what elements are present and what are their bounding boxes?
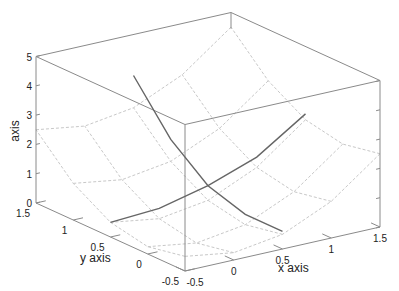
x-tick-label: 1 <box>328 244 334 255</box>
x-tick-label: 0 <box>231 266 237 277</box>
z-tick-label: 2 <box>26 139 32 150</box>
z-tick <box>36 173 40 174</box>
x-tick-label: 1.5 <box>373 233 387 244</box>
z-tick <box>36 202 40 203</box>
z-tick <box>36 56 40 57</box>
x-tick <box>176 267 185 271</box>
mesh-line-x <box>36 27 231 130</box>
surface-plot: -0.500.511.5-0.500.511.5012345 x axis y … <box>0 0 399 291</box>
box-edge <box>36 13 231 57</box>
y-tick-label: 1.5 <box>16 208 30 219</box>
slice-curves <box>111 76 306 232</box>
y-tick <box>111 235 121 237</box>
z-tick <box>36 144 40 145</box>
y-tick-label: 1 <box>62 225 68 236</box>
x-tick <box>274 245 283 249</box>
z-tick-label: 4 <box>26 81 32 92</box>
z-tick-label: 3 <box>26 110 32 121</box>
y-tick-label: -0.5 <box>162 276 180 287</box>
surface-mesh <box>36 27 380 256</box>
box-edge <box>231 13 380 81</box>
x-tick <box>225 256 234 260</box>
z-axis-label: axis <box>8 120 22 141</box>
y-tick <box>185 269 195 271</box>
y-axis-label: y axis <box>80 251 111 265</box>
x-tick <box>322 234 331 238</box>
axes-box <box>36 13 380 272</box>
z-tick-right <box>376 110 380 111</box>
y-tick-label: 0 <box>136 259 142 270</box>
z-tick <box>36 114 40 115</box>
x-tick-label: -0.5 <box>186 277 204 288</box>
mesh-line-x <box>185 154 380 257</box>
z-tick-label: 0 <box>26 198 32 209</box>
y-tick <box>148 252 158 254</box>
slice-curve <box>111 114 306 222</box>
z-tick-right <box>376 227 380 228</box>
z-tick-label: 1 <box>26 169 32 180</box>
box-edge <box>185 81 380 125</box>
x-tick <box>371 223 380 227</box>
z-tick <box>36 85 40 86</box>
z-tick-right <box>376 168 380 169</box>
z-tick-label: 5 <box>26 52 32 63</box>
tick-labels: -0.500.511.5-0.500.511.5012345 <box>16 52 387 289</box>
mesh-line-x <box>148 144 343 247</box>
mesh-line-x <box>111 120 306 223</box>
y-tick <box>73 218 83 220</box>
z-tick-right <box>376 198 380 199</box>
box-edge <box>36 57 185 125</box>
z-tick-right <box>376 81 380 82</box>
x-axis-label: x axis <box>278 261 309 275</box>
z-tick-right <box>376 139 380 140</box>
